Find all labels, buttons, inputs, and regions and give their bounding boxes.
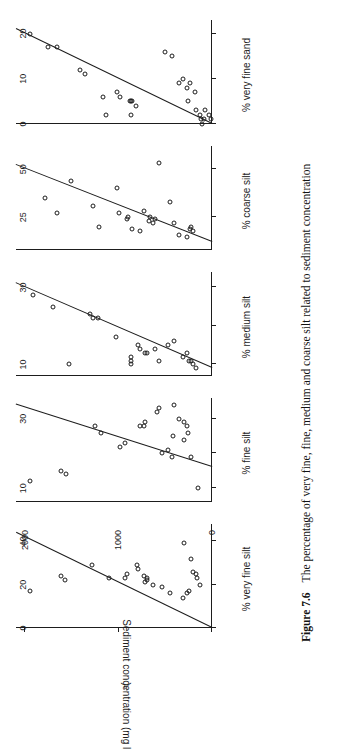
data-point	[192, 90, 197, 95]
data-point	[128, 112, 133, 117]
data-point	[177, 81, 182, 86]
data-point	[137, 228, 142, 233]
data-point	[125, 215, 130, 220]
data-point	[181, 541, 186, 546]
x-axis-line	[211, 20, 212, 124]
data-point	[101, 94, 106, 99]
data-point	[191, 228, 196, 233]
data-point	[172, 402, 177, 407]
data-point	[160, 584, 165, 589]
panel-row: 02040010002000% very fine silt1030% fine…	[10, 12, 262, 642]
data-point	[184, 234, 189, 239]
regression-line	[16, 404, 212, 467]
x-axis-title: % fine silt	[241, 390, 252, 516]
data-point	[63, 578, 68, 583]
plot-area: 1030	[16, 272, 212, 376]
data-point	[156, 406, 161, 411]
data-point	[104, 112, 109, 117]
data-point	[93, 423, 98, 428]
scatter-panel: 02040010002000% very fine silt	[10, 516, 262, 642]
data-point	[193, 366, 198, 371]
data-point	[184, 350, 189, 355]
data-point	[167, 199, 172, 204]
data-point	[54, 45, 59, 50]
data-point	[42, 196, 47, 201]
x-axis-tick	[212, 168, 216, 169]
data-point	[145, 350, 150, 355]
data-point	[160, 451, 165, 456]
y-axis-tick	[211, 628, 212, 632]
data-point	[189, 454, 194, 459]
scatter-panel: 1030% fine silt	[10, 390, 262, 516]
data-point	[113, 335, 118, 340]
data-point	[51, 304, 56, 309]
x-axis-tick	[212, 418, 216, 419]
y-axis-title-tail: )	[121, 682, 132, 685]
data-point	[187, 589, 192, 594]
x-axis-title: % coarse silt	[241, 138, 252, 264]
data-point	[27, 31, 32, 36]
x-axis-tick	[212, 540, 216, 541]
data-point	[184, 85, 189, 90]
data-point	[31, 293, 36, 298]
scatter-panel: 2550% coarse silt	[10, 138, 262, 264]
data-point	[189, 556, 194, 561]
data-point	[122, 576, 127, 581]
y-axis-line	[16, 501, 212, 502]
data-point	[172, 339, 177, 344]
x-axis-tick	[212, 78, 216, 79]
data-point	[91, 203, 96, 208]
data-point	[165, 448, 170, 453]
data-point	[129, 354, 134, 359]
x-axis-tick-label: 30	[19, 414, 28, 424]
data-point	[66, 362, 71, 367]
x-axis-title: % very fine silt	[241, 516, 252, 642]
x-axis-tick	[212, 33, 216, 34]
data-point	[152, 217, 157, 222]
x-axis-tick	[212, 627, 216, 628]
data-point	[181, 437, 186, 442]
data-point	[180, 595, 185, 600]
data-point	[98, 430, 103, 435]
data-point	[167, 591, 172, 596]
data-point	[165, 343, 170, 348]
data-point	[96, 224, 101, 229]
y-axis-line	[16, 375, 212, 376]
x-axis-tick-label: 10	[19, 483, 28, 493]
x-axis-tick	[212, 584, 216, 585]
figure-caption: Figure 7.6The percentage of very fine, f…	[300, 12, 312, 642]
data-point	[68, 178, 73, 183]
data-point	[46, 45, 51, 50]
data-point	[90, 563, 95, 568]
data-point	[194, 576, 199, 581]
x-axis-line	[211, 146, 212, 250]
plot-area: 2550	[16, 146, 212, 250]
data-point	[145, 578, 150, 583]
x-axis-title: % medium silt	[241, 264, 252, 390]
scatter-panel: 01020% very fine sand	[10, 12, 262, 138]
x-axis-tick	[212, 123, 216, 124]
data-point	[27, 479, 32, 484]
data-point	[197, 582, 202, 587]
plot-area: 1030	[16, 398, 212, 502]
data-point	[130, 226, 135, 231]
plot-area: 01020	[16, 20, 212, 124]
x-axis-tick-label: 20	[19, 580, 28, 590]
data-point	[150, 582, 155, 587]
data-point	[188, 81, 193, 86]
data-point	[27, 589, 32, 594]
data-point	[186, 430, 191, 435]
data-point	[169, 54, 174, 59]
data-point	[156, 161, 161, 166]
scatter-panel: 1030% medium silt	[10, 264, 262, 390]
data-point	[143, 420, 148, 425]
data-point	[200, 122, 205, 127]
data-point	[208, 117, 213, 122]
data-point	[64, 472, 69, 477]
data-point	[117, 211, 122, 216]
data-point	[124, 571, 129, 576]
data-point	[54, 211, 59, 216]
x-axis-tick	[212, 325, 216, 326]
y-axis-tick-label: 0	[208, 530, 217, 535]
